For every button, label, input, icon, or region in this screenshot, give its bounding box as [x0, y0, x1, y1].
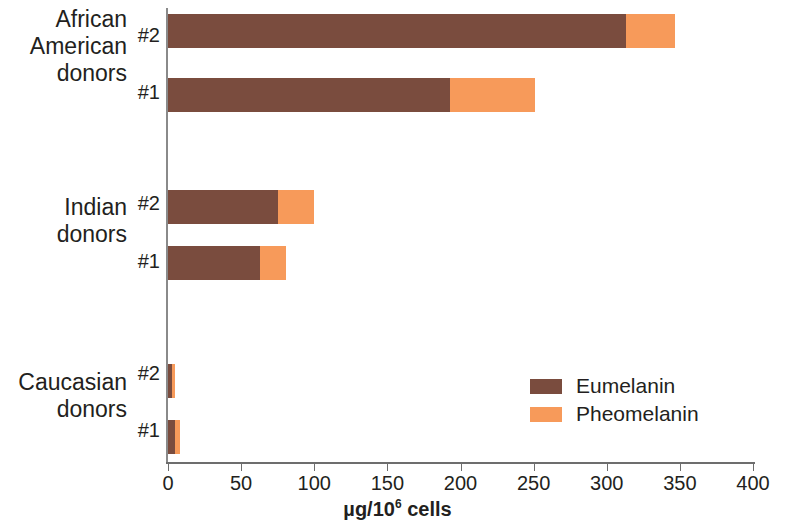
- bar-segment-pheomelanin[interactable]: [626, 14, 676, 48]
- x-axis-title: µg/106 cells: [0, 498, 795, 521]
- chart-legend: Eumelanin Pheomelanin: [530, 372, 699, 428]
- donor-label-caucasian-2: #2: [120, 362, 160, 384]
- x-tick-label: 400: [723, 471, 783, 495]
- bar-segment-eumelanin[interactable]: [168, 420, 175, 454]
- group-label-line: Indian: [0, 194, 127, 221]
- group-label-caucasian: Caucasian donors: [0, 369, 127, 423]
- x-tick-mark: [534, 464, 535, 471]
- x-tick-mark: [314, 464, 315, 471]
- bar-row[interactable]: [168, 190, 314, 224]
- group-label-line: donors: [0, 396, 127, 423]
- x-tick-mark: [461, 464, 462, 471]
- donor-label-indian-1: #1: [120, 250, 160, 272]
- x-axis-title-exponent: 6: [395, 497, 402, 511]
- group-label-indian: Indian donors: [0, 194, 127, 248]
- bar-row[interactable]: [168, 14, 675, 48]
- x-tick-label: 200: [431, 471, 491, 495]
- x-tick-mark: [680, 464, 681, 471]
- legend-item-pheomelanin: Pheomelanin: [530, 400, 699, 428]
- x-tick-mark: [168, 464, 169, 471]
- bar-segment-eumelanin[interactable]: [168, 78, 450, 112]
- x-axis-title-tail: cells: [402, 498, 452, 520]
- x-tick-mark: [607, 464, 608, 471]
- donor-label-aa-2: #2: [120, 24, 160, 46]
- x-tick-label: 250: [504, 471, 564, 495]
- x-tick-label: 300: [577, 471, 637, 495]
- donor-label-caucasian-1: #1: [120, 419, 160, 441]
- bar-segment-pheomelanin[interactable]: [260, 246, 286, 280]
- bar-segment-eumelanin[interactable]: [168, 246, 260, 280]
- legend-swatch-eumelanin: [530, 379, 562, 394]
- legend-swatch-pheomelanin: [530, 407, 562, 422]
- group-label-line: donors: [0, 221, 127, 248]
- bar-segment-eumelanin[interactable]: [168, 190, 278, 224]
- bar-row[interactable]: [168, 78, 535, 112]
- x-tick-mark: [241, 464, 242, 471]
- legend-item-eumelanin: Eumelanin: [530, 372, 699, 400]
- bar-segment-pheomelanin[interactable]: [175, 420, 179, 454]
- melanin-bar-chart: 050100150200250300350400 µg/106 cells Af…: [0, 0, 795, 523]
- bar-segment-pheomelanin[interactable]: [278, 190, 315, 224]
- bar-segment-pheomelanin[interactable]: [450, 78, 535, 112]
- group-label-line: donors: [0, 60, 127, 87]
- bar-segment-pheomelanin[interactable]: [172, 364, 175, 398]
- x-tick-mark: [387, 464, 388, 471]
- bar-row[interactable]: [168, 246, 286, 280]
- x-tick-label: 100: [284, 471, 344, 495]
- group-label-line: Caucasian: [0, 369, 127, 396]
- group-label-african-american: African American donors: [0, 6, 127, 87]
- bar-row[interactable]: [168, 364, 175, 398]
- donor-label-indian-2: #2: [120, 192, 160, 214]
- legend-label-pheomelanin: Pheomelanin: [576, 402, 699, 426]
- x-tick-label: 0: [138, 471, 198, 495]
- donor-label-aa-1: #1: [120, 81, 160, 103]
- x-tick-mark: [753, 464, 754, 471]
- group-label-line: American: [0, 33, 127, 60]
- x-axis-title-main: µg/10: [343, 498, 395, 520]
- x-tick-label: 350: [650, 471, 710, 495]
- x-tick-label: 150: [357, 471, 417, 495]
- bar-segment-eumelanin[interactable]: [168, 14, 626, 48]
- bar-row[interactable]: [168, 420, 180, 454]
- x-tick-label: 50: [211, 471, 271, 495]
- legend-label-eumelanin: Eumelanin: [576, 374, 675, 398]
- group-label-line: African: [0, 6, 127, 33]
